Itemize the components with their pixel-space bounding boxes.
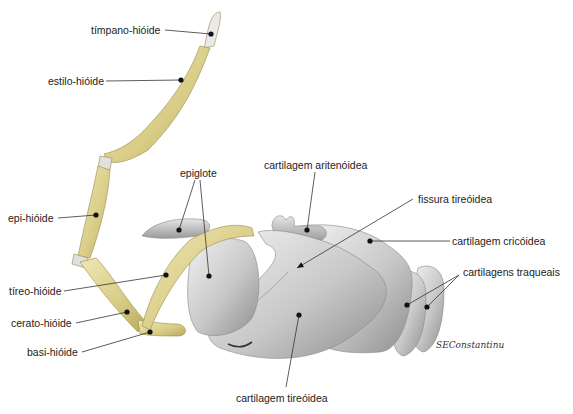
label-fissura-tireoidea: fissura tireóidea: [418, 193, 492, 205]
label-cartilagens-traqueais: cartilagens traqueais: [463, 266, 560, 278]
label-cartilagem-aritenoidea: cartilagem aritenóidea: [264, 159, 367, 171]
label-cartilagem-cricoidea: cartilagem cricóidea: [452, 235, 545, 247]
label-cartilagem-tireoidea: cartilagem tireóidea: [236, 392, 328, 404]
artist-signature: SEConstantinu: [436, 340, 504, 350]
label-basi-hioide: basi-hióide: [27, 346, 78, 358]
label-epiglote: epiglote: [180, 167, 217, 179]
label-timpano-hioide: tímpano-hióide: [91, 24, 160, 36]
label-cerato-hioide: cerato-hióide: [11, 317, 72, 329]
label-epi-hioide: epi-hióide: [8, 212, 54, 224]
label-tireo-hioide: tíreo-hióide: [9, 285, 62, 297]
anatomy-diagram: tímpano-hióide estilo-hióide epi-hióide …: [0, 0, 573, 414]
label-estilo-hioide: estilo-hióide: [48, 75, 104, 87]
leader-lines: [0, 0, 573, 414]
